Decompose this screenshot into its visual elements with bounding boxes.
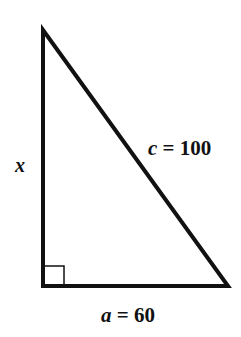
triangle-diagram: x c = 100 a = 60 bbox=[0, 0, 241, 337]
right-angle-marker bbox=[44, 266, 64, 286]
vertical-side-label: x bbox=[14, 154, 25, 176]
hypotenuse-label: c = 100 bbox=[148, 136, 211, 160]
base-label: a = 60 bbox=[101, 303, 155, 327]
